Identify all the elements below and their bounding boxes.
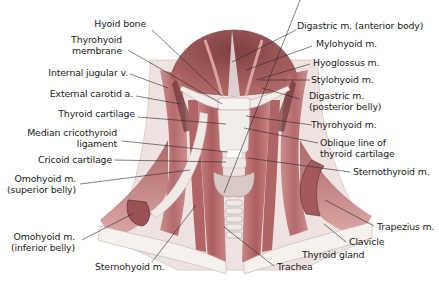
label-thyrohyoid: Thyrohyoid m. (311, 120, 377, 131)
label-omohyoid-superior-belly: Omohyoid m. (superior belly) (7, 174, 76, 195)
label-mylohyoid: Mylohyoid m. (316, 39, 377, 50)
label-thyroid-gland: Thyroid gland (302, 250, 364, 261)
label-digastric-posterior: Digastric m. (posterior belly) (309, 91, 381, 112)
cricoid-cartilage (222, 158, 246, 168)
label-oblique-line: Oblique line of thyroid cartilage (320, 138, 395, 159)
label-stylohyoid: Stylohyoid m. (311, 75, 373, 86)
label-cricoid-cartilage: Cricoid cartilage (38, 155, 112, 166)
label-thyroid-cartilage: Thyroid cartilage (58, 109, 135, 120)
label-trachea: Trachea (277, 262, 313, 273)
thyroid-cartilage (218, 110, 250, 155)
label-hyoglossus: Hyoglossus m. (313, 58, 379, 69)
label-clavicle: Clavicle (349, 237, 384, 248)
label-internal-jugular-v: Internal jugular v. (48, 68, 128, 79)
label-thyrohyoid-membrane: Thyrohyoid membrane (71, 35, 122, 56)
label-omohyoid-inferior-belly: Omohyoid m. (inferior belly) (11, 232, 75, 253)
trachea (226, 200, 242, 238)
label-external-carotid-a: External carotid a. (50, 89, 133, 100)
label-sternohyoid: Sternohyoid m. (95, 262, 165, 273)
label-sternothyroid: Sternothyroid m. (353, 167, 430, 178)
label-trapezius: Trapezius m. (377, 222, 434, 233)
anatomy-figure: Hyoid bone Thyrohyoid membrane Internal … (0, 0, 439, 282)
label-digastric-anterior: Digastric m. (anterior body) (297, 21, 423, 32)
label-hyoid-bone: Hyoid bone (94, 19, 146, 30)
label-median-cricothyroid-ligament: Median cricothyroid ligament (27, 128, 117, 149)
